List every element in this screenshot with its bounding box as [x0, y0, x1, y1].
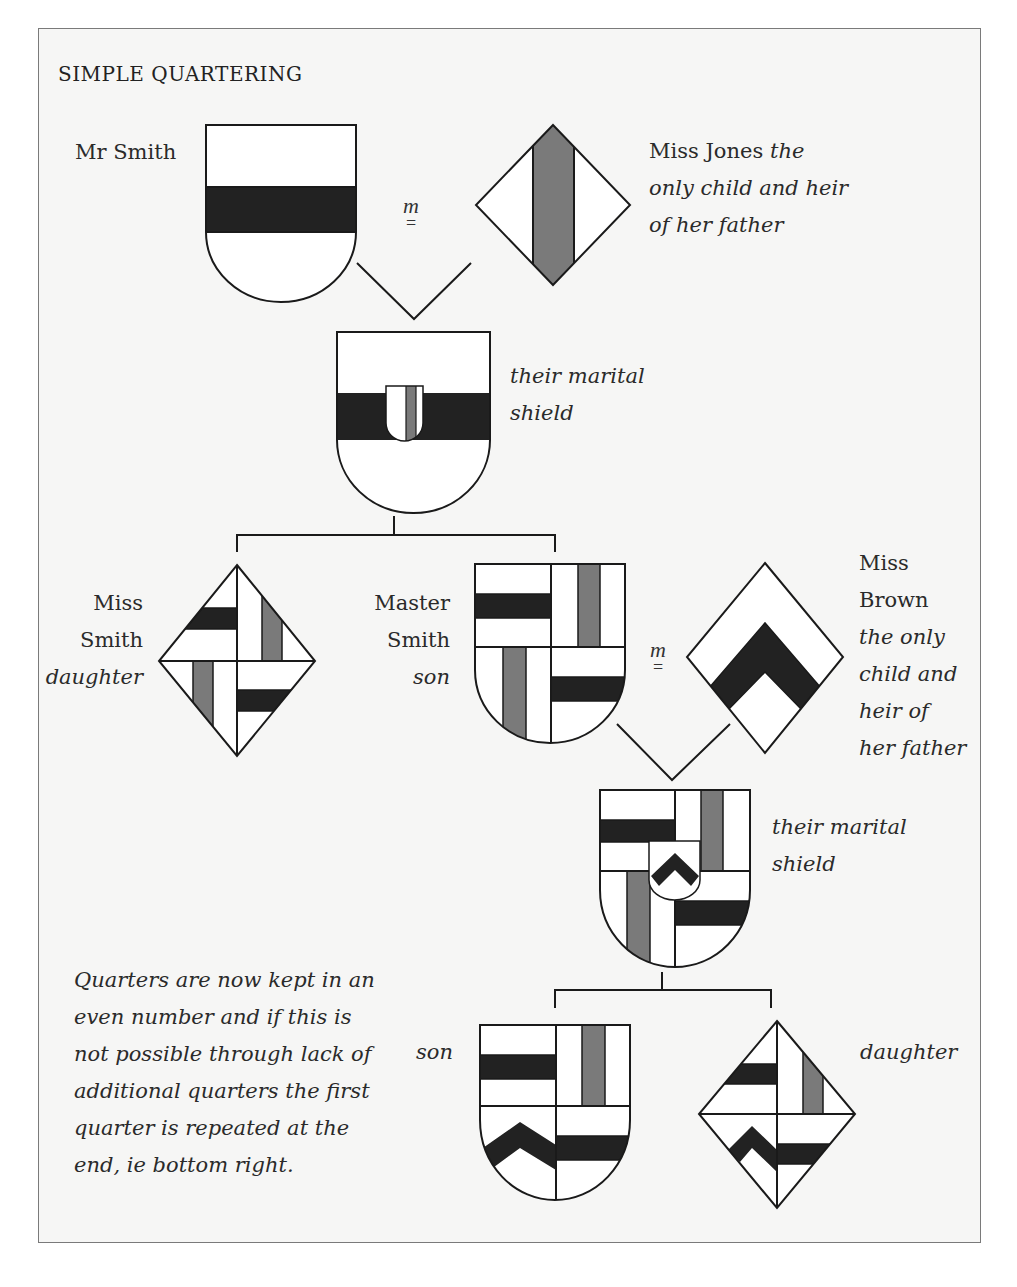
miss-brown-line-2: Brown	[859, 582, 966, 619]
master-smith-label: Master Smith son	[340, 585, 450, 696]
master-smith-line-2: Smith	[340, 622, 450, 659]
marriage-equals: =	[396, 216, 426, 230]
marital-1-line-2: shield	[510, 395, 645, 432]
marriage-symbol-2: m =	[643, 640, 673, 674]
miss-jones-desc-1: the	[770, 139, 804, 163]
mr-smith-label: Mr Smith	[75, 134, 176, 171]
miss-jones-lozenge-icon	[470, 120, 640, 290]
note-line: even number and if this is	[74, 999, 375, 1036]
marriage-equals-2: =	[643, 660, 673, 674]
miss-smith-label: Miss Smith daughter	[40, 585, 143, 696]
miss-brown-desc-2: child and	[859, 656, 966, 693]
note-line: additional quarters the first	[74, 1073, 375, 1110]
miss-brown-desc-4: her father	[859, 730, 966, 767]
miss-brown-desc-1: the only	[859, 619, 966, 656]
mr-smith-shield-icon	[200, 120, 360, 320]
miss-smith-role: daughter	[40, 659, 143, 696]
master-smith-role: son	[340, 659, 450, 696]
marital-2-line-1: their marital	[772, 809, 907, 846]
grandson-label: son	[416, 1034, 453, 1071]
marital-1-line-1: their marital	[510, 358, 645, 395]
master-smith-line-1: Master	[340, 585, 450, 622]
granddaughter-label: daughter	[860, 1034, 957, 1071]
note-line: end, ie bottom right.	[74, 1147, 375, 1184]
note-line: not possible through lack of	[74, 1036, 375, 1073]
miss-smith-line-1: Miss	[40, 585, 143, 622]
miss-jones-desc-3: of her father	[649, 207, 848, 244]
marriage-symbol-1: m =	[396, 196, 426, 230]
quartering-note: Quarters are now kept in an even number …	[74, 962, 375, 1184]
miss-brown-line-1: Miss	[859, 545, 966, 582]
note-line: Quarters are now kept in an	[74, 962, 375, 999]
page-title: SIMPLE QUARTERING	[58, 62, 302, 86]
marital-2-line-2: shield	[772, 846, 907, 883]
miss-jones-desc-2: only child and heir	[649, 170, 848, 207]
miss-jones-name: Miss Jones	[649, 139, 763, 163]
note-line: quarter is repeated at the	[74, 1110, 375, 1147]
miss-jones-label: Miss Jones the only child and heir of he…	[649, 133, 848, 244]
marital-shield-2-label: their marital shield	[772, 809, 907, 883]
miss-smith-line-2: Smith	[40, 622, 143, 659]
miss-brown-label: Miss Brown the only child and heir of he…	[859, 545, 966, 767]
marital-shield-1-label: their marital shield	[510, 358, 645, 432]
miss-brown-desc-3: heir of	[859, 693, 966, 730]
